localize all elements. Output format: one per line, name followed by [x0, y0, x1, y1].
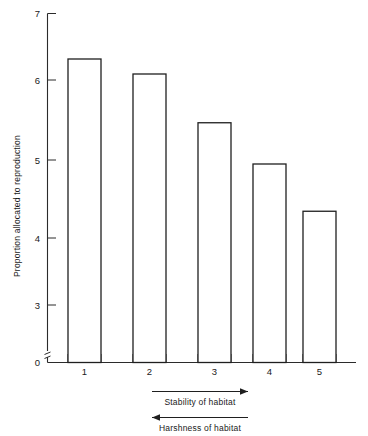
y-tick-label-5: 5: [35, 155, 40, 166]
x-tick-label-4: 4: [267, 366, 272, 377]
bar-3[interactable]: [198, 123, 231, 363]
bar-1[interactable]: [68, 59, 101, 363]
x-tick-label-3: 3: [212, 366, 217, 377]
stability-label: Stability of habitat: [164, 397, 236, 407]
bar-chart-figure: 7 6 5 4 3 0 Proportion allocated to repr…: [0, 0, 368, 436]
bar-4[interactable]: [253, 164, 286, 363]
y-tick-label-3: 3: [35, 300, 40, 311]
x-tick-label-2: 2: [147, 366, 152, 377]
x-tick-label-5: 5: [317, 366, 322, 377]
bar-5[interactable]: [303, 211, 336, 362]
y-tick-label-7: 7: [35, 8, 40, 19]
harshness-label: Harshness of habitat: [159, 423, 241, 433]
annotation-stability: Stability of habitat: [152, 388, 248, 407]
y-tick-label-6: 6: [35, 75, 40, 86]
y-tick-label-0: 0: [35, 357, 40, 368]
annotation-harshness: Harshness of habitat: [152, 414, 248, 433]
x-tick-label-1: 1: [82, 366, 87, 377]
bar-2[interactable]: [133, 74, 166, 363]
y-axis-title: Proportion allocated to reproduction: [12, 135, 22, 277]
y-tick-label-4: 4: [35, 233, 40, 244]
